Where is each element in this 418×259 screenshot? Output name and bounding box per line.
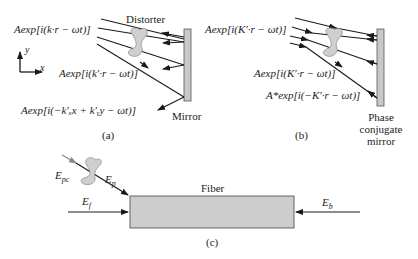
figure-canvas: Aexp[i(k·r − ωt)] y x Distorter Aexp[i(k…: [0, 0, 418, 259]
e-b-symbol: E: [322, 196, 329, 208]
mirror-label: Mirror: [172, 110, 201, 122]
pcm-label-line3: mirror: [353, 135, 409, 147]
incident-wave-b-label: Aexp[i(K′·r − ωt)]: [205, 23, 286, 35]
e-b-label: Eb: [322, 196, 333, 213]
e-pc-label: Epc: [55, 169, 69, 186]
e-p-symbol: E: [105, 173, 112, 185]
fiber-body: [130, 196, 294, 228]
e-p-subscript: p: [112, 179, 116, 188]
pcm-label-line1: Phase: [353, 111, 409, 123]
e-p-label: Ep: [105, 173, 116, 190]
axes-icon: [20, 52, 42, 72]
distorter-label: Distorter: [126, 13, 165, 25]
distorter-b: [323, 28, 342, 56]
caption-b: (b): [295, 129, 308, 141]
distorted-wave-b-label: Aexp[i(K′·r − ωt)]: [254, 67, 335, 79]
fiber-label: Fiber: [201, 182, 224, 194]
e-pc-symbol: E: [55, 169, 62, 181]
distorter-c: [81, 158, 101, 185]
caption-a: (a): [102, 129, 114, 141]
axis-x-label: x: [40, 62, 44, 74]
e-f-label: Ef: [82, 195, 91, 212]
phase-conjugate-mirror: [377, 29, 384, 106]
phase-conjugate-mirror-label: Phase conjugate mirror: [353, 111, 409, 147]
incident-wave-a-label: Aexp[i(k·r − ωt)]: [14, 23, 91, 35]
e-f-symbol: E: [82, 195, 89, 207]
axis-y-label: y: [25, 44, 29, 56]
e-b-subscript: b: [329, 202, 333, 211]
pcm-label-line2: conjugate: [353, 123, 409, 135]
reflected-wave-a-label: Aexp[i(−k′ₓx + k′ᵧy − ωt)]: [21, 104, 136, 116]
distorted-wave-a-label: Aexp[i(k′·r − ωt)]: [59, 67, 138, 79]
mirror-a: [184, 29, 191, 101]
e-pc-subscript: pc: [62, 175, 70, 184]
conjugate-wave-label: A*exp[i(−K′·r − ωt)]: [266, 89, 360, 101]
caption-c: (c): [206, 236, 218, 248]
e-f-subscript: f: [89, 201, 91, 210]
